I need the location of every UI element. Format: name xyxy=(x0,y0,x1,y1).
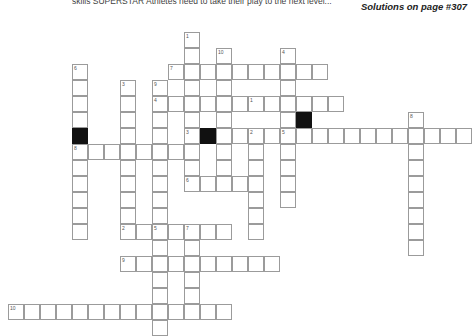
crossword-cell[interactable] xyxy=(216,176,232,192)
crossword-cell[interactable] xyxy=(168,304,184,320)
crossword-cell[interactable] xyxy=(184,160,200,176)
crossword-cell[interactable] xyxy=(152,160,168,176)
crossword-cell[interactable] xyxy=(280,96,296,112)
crossword-cell[interactable] xyxy=(152,128,168,144)
crossword-cell[interactable]: 7 xyxy=(184,224,200,240)
crossword-cell[interactable] xyxy=(136,304,152,320)
crossword-cell[interactable] xyxy=(72,192,88,208)
crossword-cell[interactable] xyxy=(72,176,88,192)
crossword-cell[interactable] xyxy=(408,160,424,176)
crossword-cell[interactable] xyxy=(312,96,328,112)
crossword-cell[interactable]: 9 xyxy=(120,256,136,272)
crossword-cell[interactable] xyxy=(120,176,136,192)
crossword-cell[interactable] xyxy=(216,96,232,112)
crossword-cell[interactable] xyxy=(248,256,264,272)
crossword-cell[interactable] xyxy=(120,160,136,176)
crossword-cell[interactable] xyxy=(232,256,248,272)
crossword-cell[interactable]: 5 xyxy=(280,128,296,144)
crossword-cell[interactable] xyxy=(120,192,136,208)
crossword-cell[interactable] xyxy=(168,96,184,112)
crossword-cell[interactable] xyxy=(120,112,136,128)
crossword-cell[interactable] xyxy=(40,304,56,320)
crossword-cell[interactable] xyxy=(200,176,216,192)
crossword-cell[interactable] xyxy=(72,224,88,240)
crossword-cell[interactable]: 2 xyxy=(120,224,136,240)
crossword-cell[interactable] xyxy=(264,64,280,80)
crossword-cell[interactable] xyxy=(216,80,232,96)
crossword-cell[interactable] xyxy=(200,304,216,320)
crossword-cell[interactable] xyxy=(152,144,168,160)
crossword-cell[interactable]: 10 xyxy=(216,48,232,64)
crossword-cell[interactable] xyxy=(232,96,248,112)
crossword-cell[interactable] xyxy=(72,304,88,320)
crossword-cell[interactable] xyxy=(72,160,88,176)
crossword-cell[interactable] xyxy=(184,96,200,112)
crossword-cell[interactable] xyxy=(120,128,136,144)
crossword-cell[interactable] xyxy=(392,128,408,144)
crossword-cell[interactable] xyxy=(152,176,168,192)
crossword-cell[interactable] xyxy=(216,304,232,320)
crossword-cell[interactable] xyxy=(56,304,72,320)
crossword-cell[interactable] xyxy=(312,128,328,144)
crossword-cell[interactable] xyxy=(232,176,248,192)
crossword-cell[interactable] xyxy=(152,208,168,224)
crossword-cell[interactable] xyxy=(88,304,104,320)
crossword-cell[interactable] xyxy=(408,240,424,256)
crossword-cell[interactable] xyxy=(408,176,424,192)
crossword-cell[interactable]: 6 xyxy=(72,64,88,80)
crossword-cell[interactable] xyxy=(280,112,296,128)
crossword-cell[interactable] xyxy=(200,96,216,112)
crossword-cell[interactable] xyxy=(280,160,296,176)
crossword-cell[interactable] xyxy=(328,96,344,112)
crossword-cell[interactable] xyxy=(248,160,264,176)
crossword-cell[interactable]: 9 xyxy=(152,80,168,96)
crossword-cell[interactable] xyxy=(184,288,200,304)
crossword-cell[interactable] xyxy=(248,192,264,208)
crossword-cell[interactable] xyxy=(184,304,200,320)
crossword-cell[interactable] xyxy=(296,128,312,144)
crossword-cell[interactable] xyxy=(232,128,248,144)
crossword-cell[interactable] xyxy=(408,224,424,240)
crossword-cell[interactable] xyxy=(72,80,88,96)
crossword-cell[interactable] xyxy=(200,256,216,272)
crossword-cell[interactable] xyxy=(232,64,248,80)
crossword-cell[interactable]: 3 xyxy=(120,80,136,96)
crossword-cell[interactable] xyxy=(184,256,200,272)
crossword-cell[interactable] xyxy=(280,176,296,192)
crossword-cell[interactable] xyxy=(184,144,200,160)
crossword-cell[interactable] xyxy=(184,112,200,128)
crossword-cell[interactable] xyxy=(184,48,200,64)
crossword-cell[interactable] xyxy=(280,144,296,160)
crossword-cell[interactable] xyxy=(216,224,232,240)
crossword-cell[interactable] xyxy=(104,144,120,160)
crossword-cell[interactable] xyxy=(280,80,296,96)
crossword-cell[interactable]: 4 xyxy=(152,96,168,112)
crossword-cell[interactable] xyxy=(72,96,88,112)
crossword-cell[interactable] xyxy=(72,208,88,224)
crossword-cell[interactable] xyxy=(152,192,168,208)
crossword-cell[interactable]: 4 xyxy=(280,48,296,64)
crossword-cell[interactable] xyxy=(152,240,168,256)
crossword-cell[interactable] xyxy=(152,112,168,128)
crossword-cell[interactable] xyxy=(168,224,184,240)
crossword-cell[interactable] xyxy=(440,128,456,144)
crossword-cell[interactable] xyxy=(120,304,136,320)
crossword-cell[interactable]: 5 xyxy=(152,224,168,240)
crossword-cell[interactable] xyxy=(184,272,200,288)
crossword-cell[interactable] xyxy=(296,64,312,80)
crossword-cell[interactable] xyxy=(120,208,136,224)
crossword-cell[interactable] xyxy=(136,256,152,272)
crossword-cell[interactable] xyxy=(72,112,88,128)
crossword-cell[interactable] xyxy=(456,128,472,144)
crossword-cell[interactable] xyxy=(200,224,216,240)
crossword-cell[interactable] xyxy=(248,208,264,224)
crossword-cell[interactable] xyxy=(360,128,376,144)
crossword-cell[interactable] xyxy=(104,304,120,320)
crossword-cell[interactable] xyxy=(184,80,200,96)
crossword-cell[interactable] xyxy=(216,144,232,160)
crossword-cell[interactable] xyxy=(152,288,168,304)
crossword-cell[interactable] xyxy=(200,64,216,80)
crossword-cell[interactable] xyxy=(408,208,424,224)
crossword-cell[interactable] xyxy=(408,128,424,144)
